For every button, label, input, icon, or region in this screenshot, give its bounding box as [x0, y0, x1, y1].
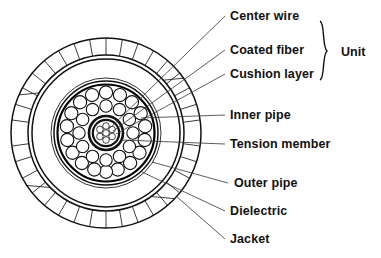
unit-circle	[86, 103, 98, 115]
unit-circle	[86, 150, 98, 162]
coated-fiber-circle	[97, 133, 104, 140]
unit-circle	[88, 163, 101, 176]
center-wire-circle	[103, 130, 110, 137]
coated-fiber-circle	[109, 133, 116, 140]
label-inner-pipe: Inner pipe	[230, 108, 291, 122]
unit-circle	[111, 163, 124, 176]
unit-brace	[320, 21, 327, 80]
unit-circle	[100, 154, 112, 166]
unit-circle	[100, 100, 112, 112]
unit-circle	[99, 86, 112, 99]
label-coated-fiber: Coated fiber	[230, 43, 304, 57]
unit-circle	[99, 165, 112, 178]
unit-circle	[61, 133, 74, 146]
unit-circle	[76, 113, 88, 125]
label-tension-member: Tension member	[230, 137, 331, 151]
unit-circle	[113, 150, 125, 162]
unit-circle	[60, 120, 73, 133]
label-outer-pipe: Outer pipe	[234, 176, 298, 190]
coated-fiber-circle	[103, 137, 110, 144]
cable-diagram-svg: Center wire Coated fiber Cushion layer I…	[0, 0, 381, 258]
unit-circle	[127, 127, 139, 139]
leader-line-jacket	[176, 196, 225, 239]
label-group: Center wire Coated fiber Cushion layer I…	[230, 9, 366, 246]
unit-circle	[73, 127, 85, 139]
label-dielectric: Dielectric	[230, 204, 287, 218]
unit-circle	[85, 88, 98, 101]
unit-brace-group	[320, 21, 327, 80]
label-cushion-layer: Cushion layer	[230, 67, 314, 81]
unit-circle	[123, 140, 135, 152]
coated-fiber-circle	[97, 126, 104, 133]
unit-circle	[113, 88, 126, 101]
label-center-wire: Center wire	[230, 9, 299, 23]
label-unit: Unit	[341, 45, 366, 59]
unit-circle	[138, 133, 151, 146]
label-jacket: Jacket	[230, 232, 270, 246]
unit-circle	[65, 107, 78, 120]
unit-circle	[139, 120, 152, 133]
unit-circle	[73, 96, 86, 109]
coated-fiber-circle	[103, 123, 110, 130]
unit-circle	[76, 140, 88, 152]
cable-cross-section-diagram: Center wire Coated fiber Cushion layer I…	[0, 0, 381, 258]
unit-circle	[113, 103, 125, 115]
